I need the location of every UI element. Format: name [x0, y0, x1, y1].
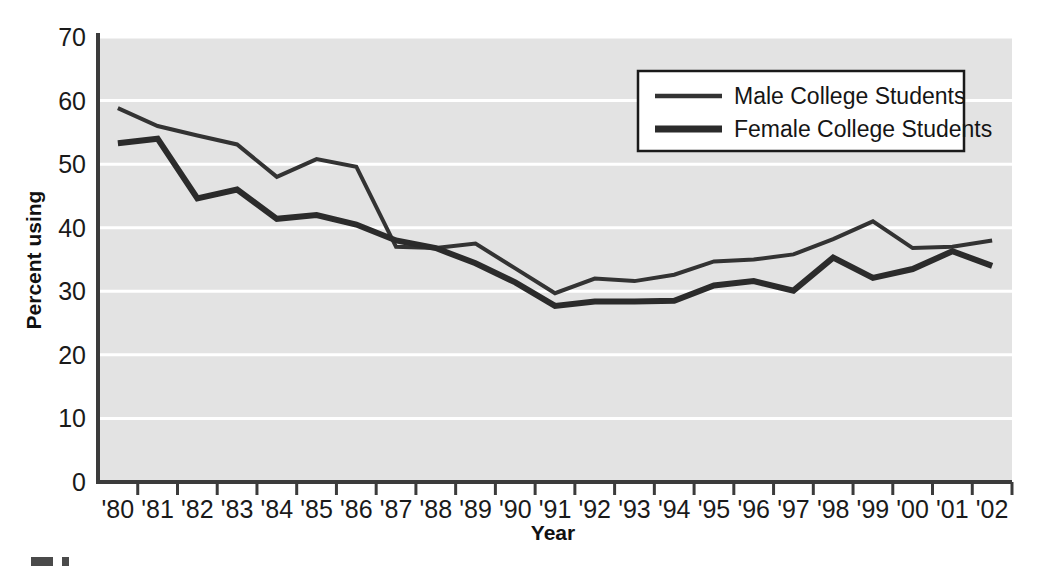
x-tick-label: '97 — [777, 495, 810, 523]
line-chart: 010203040506070 '80'81'82'83'84'85'86'87… — [0, 0, 1050, 566]
x-axis-title: Year — [531, 521, 575, 544]
legend-label-female: Female College Students — [734, 116, 992, 142]
x-tick-label: '80 — [102, 495, 135, 523]
x-tick-label: '00 — [896, 495, 929, 523]
x-tick-label: '92 — [578, 495, 611, 523]
x-axis-tick-labels: '80'81'82'83'84'85'86'87'88'89'90'91'92'… — [102, 495, 1009, 523]
x-tick-label: '84 — [261, 495, 294, 523]
x-tick-label: '91 — [539, 495, 572, 523]
x-tick-label: '88 — [419, 495, 452, 523]
x-tick-label: '02 — [976, 495, 1009, 523]
chart-legend: Male College Students Female College Stu… — [638, 71, 992, 151]
x-tick-label: '81 — [141, 495, 174, 523]
y-tick-label: 20 — [58, 341, 86, 369]
x-tick-label: '01 — [936, 495, 969, 523]
x-tick-label: '94 — [658, 495, 691, 523]
x-tick-label: '93 — [618, 495, 651, 523]
x-tick-label: '95 — [698, 495, 731, 523]
y-tick-label: 0 — [72, 468, 86, 496]
y-tick-label: 10 — [58, 404, 86, 432]
y-tick-label: 60 — [58, 87, 86, 115]
x-tick-label: '98 — [817, 495, 850, 523]
caption-glyph-mark-2 — [62, 557, 69, 566]
x-tick-label: '90 — [499, 495, 532, 523]
y-tick-label: 40 — [58, 214, 86, 242]
x-tick-label: '86 — [340, 495, 373, 523]
y-tick-label: 50 — [58, 150, 86, 178]
legend-label-male: Male College Students — [734, 83, 965, 109]
x-tick-label: '87 — [380, 495, 413, 523]
y-axis-title: Percent using — [22, 191, 45, 330]
caption-fragment — [31, 557, 69, 566]
figure-container: 010203040506070 '80'81'82'83'84'85'86'87… — [0, 0, 1050, 566]
y-tick-label: 70 — [58, 23, 86, 51]
x-tick-label: '89 — [459, 495, 492, 523]
x-tick-label: '96 — [737, 495, 770, 523]
caption-glyph-mark — [31, 557, 53, 566]
x-tick-label: '99 — [857, 495, 890, 523]
y-tick-label: 30 — [58, 277, 86, 305]
x-tick-label: '85 — [300, 495, 333, 523]
x-tick-label: '82 — [181, 495, 214, 523]
x-tick-label: '83 — [221, 495, 254, 523]
